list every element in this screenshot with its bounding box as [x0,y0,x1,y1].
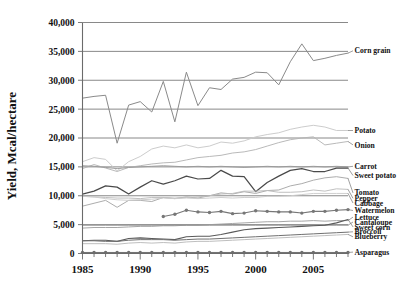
data-point [208,211,211,214]
data-point [242,211,245,214]
label-leader-line [348,234,353,236]
series-label-blueberry: Blueberry [355,232,388,241]
data-point [185,208,188,211]
label-leader-line [348,193,353,203]
series-line-blueberry [83,234,349,244]
y-tick-label: 40,000 [48,18,74,28]
label-leader-line [348,142,353,145]
y-tick-label: 30,000 [48,76,74,86]
data-point [335,208,338,211]
x-tick-label: 1985 [72,263,95,275]
x-tick-label: 2005 [302,263,325,275]
label-leader-line [348,168,353,176]
series-line-sweet-potato [83,168,349,194]
data-point [231,212,234,215]
data-series-group [81,44,350,254]
series-line-sweet-corn [83,219,349,241]
data-point [323,210,326,213]
series-label-sweet-potato: Sweet potato [355,171,397,180]
y-tick-label: 35,000 [48,47,74,57]
x-tick-label: 2000 [245,263,268,275]
series-label-potato: Potato [355,126,376,135]
series-label-carrot: Carrot [355,162,378,171]
data-point [312,210,315,213]
y-tick-label: 15,000 [48,162,74,172]
y-tick-label: 5,000 [53,220,75,230]
data-point [265,210,268,213]
data-point [289,210,292,213]
data-point [300,211,303,214]
series-label-corn-grain: Corn grain [355,46,392,55]
y-tick-label: 10,000 [48,191,74,201]
data-point [254,209,257,212]
yield-line-chart: 40,00035,00030,00025,00020,00015,00010,0… [0,0,414,291]
series-label-asparagus: Asparagus [355,248,390,257]
y-tick-label: 25,000 [48,105,74,115]
x-tick-label: 1995 [187,263,210,275]
data-point [173,213,176,216]
y-tick-label: 0 [70,249,75,259]
series-label-onion: Onion [355,141,376,150]
y-tick-label: 20,000 [48,133,74,143]
data-point [277,210,280,213]
x-tick-label: 1990 [129,263,152,275]
data-point [219,210,222,213]
x-axis-ticks-group: 19851990199520002005 [72,254,349,275]
chart-canvas: 40,00035,00030,00025,00020,00015,00010,0… [0,0,414,291]
series-line-tomato [83,177,349,208]
label-leader-line [348,51,353,53]
data-point [196,210,199,213]
label-leader-line [348,166,353,167]
y-axis-ticks-group: 40,00035,00030,00025,00020,00015,00010,0… [48,18,74,259]
series-labels-group: Corn grainPotatoOnionCarrotSweet potatoT… [348,46,396,256]
series-line-corn-grain [83,44,349,143]
label-leader-line [348,219,353,227]
data-point [162,215,165,218]
y-axis-title: Yield, Mcal/hectare [4,92,19,201]
series-line-potato [83,125,349,171]
